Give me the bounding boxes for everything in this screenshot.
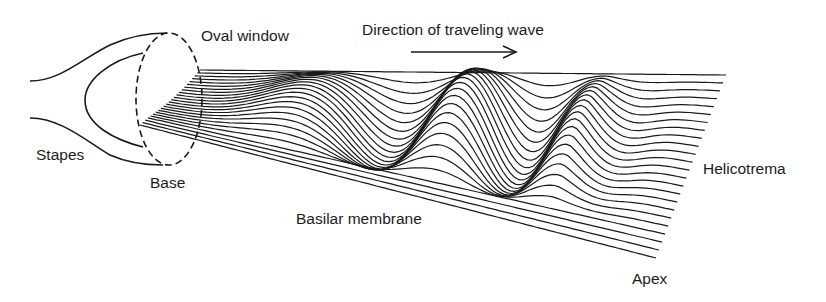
membrane-line bbox=[143, 123, 659, 250]
direction-arrow bbox=[411, 46, 516, 58]
traveling-wave-diagram bbox=[0, 0, 826, 302]
stapes-label: Stapes bbox=[36, 147, 84, 163]
membrane-line bbox=[153, 114, 671, 218]
apex-label: Apex bbox=[632, 271, 667, 287]
basilar-membrane-label: Basilar membrane bbox=[296, 211, 422, 227]
basilar-membrane-lines bbox=[140, 68, 726, 258]
membrane-line bbox=[174, 82, 696, 174]
membrane-line bbox=[140, 125, 656, 258]
membrane-line bbox=[161, 108, 680, 194]
oval-window-outline bbox=[136, 33, 202, 165]
oval-window-label: Oval window bbox=[201, 28, 289, 44]
base-label: Base bbox=[150, 175, 185, 191]
direction-label: Direction of traveling wave bbox=[362, 22, 544, 38]
helicotrema-label: Helicotrema bbox=[703, 161, 786, 177]
